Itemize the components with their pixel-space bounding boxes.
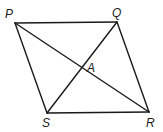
rhombus-diagram: P Q R S A xyxy=(0,0,163,132)
label-q: Q xyxy=(112,6,121,20)
label-p: P xyxy=(5,7,13,21)
label-r: R xyxy=(146,116,155,130)
side-sp xyxy=(15,23,47,113)
diagonals xyxy=(15,22,149,113)
vertex-labels: P Q R S A xyxy=(5,6,155,130)
side-qr xyxy=(117,22,149,112)
diagonal-qs xyxy=(47,22,117,113)
side-rs xyxy=(47,112,149,113)
label-s: S xyxy=(42,116,50,130)
side-pq xyxy=(15,22,117,23)
label-a: A xyxy=(86,61,95,75)
